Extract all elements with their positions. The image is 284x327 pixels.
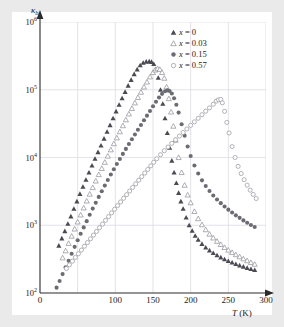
x-tick-label: 300 — [259, 296, 273, 305]
x-tick-label: 100 — [109, 296, 123, 305]
y-tick-label: 106 — [26, 18, 38, 27]
plot-area: 102103104105106 0100150200250300 — [40, 22, 266, 293]
y-tick-label: 104 — [26, 153, 38, 162]
filled-circle-icon — [168, 50, 179, 60]
legend-item-1: x = 0.03 — [168, 38, 207, 49]
x-tick-label: 200 — [184, 296, 198, 305]
series-3 — [64, 97, 258, 270]
y-tick-label: 105 — [26, 86, 38, 95]
series-2 — [55, 88, 257, 289]
figure-container: κb x = 0T (K) 102103104105106 0100150200… — [0, 0, 284, 327]
legend: x = 0x = 0.03x = 0.15x = 0.57 — [168, 27, 207, 71]
plot-svg — [40, 22, 266, 293]
legend-item-3: x = 0.57 — [168, 60, 207, 71]
x-tick-label: 150 — [146, 296, 160, 305]
x-tick-label: 0 — [38, 296, 43, 305]
y-axis-title: κb — [31, 6, 39, 15]
legend-item-label: x = 0.57 — [179, 59, 207, 71]
y-tick-label: 103 — [26, 221, 38, 230]
x-axis-unit: (K) — [237, 308, 252, 318]
open-circle-icon — [168, 61, 179, 71]
y-tick-label: 102 — [26, 289, 38, 298]
series-0 — [56, 59, 257, 272]
filled-triangle-up-icon — [168, 28, 179, 38]
x-axis-title: x = 0T (K) — [232, 309, 252, 318]
legend-item-0: x = 0 — [168, 27, 207, 38]
legend-item-2: x = 0.15 — [168, 49, 207, 60]
data-series-layer — [55, 59, 259, 290]
x-tick-label: 250 — [222, 296, 236, 305]
open-triangle-up-icon — [168, 39, 179, 49]
